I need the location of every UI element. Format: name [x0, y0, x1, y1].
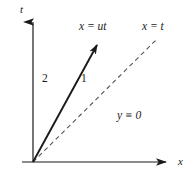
x-axis-label: x	[178, 156, 183, 167]
characteristic-t-label: x = t	[142, 21, 164, 33]
characteristic-ut-line	[33, 45, 97, 162]
spacetime-characteristics-diagram: t x x = ut x = t 2 1 y ≡ 0	[0, 0, 195, 179]
characteristic-t-line	[33, 40, 156, 162]
t-axis-label: t	[20, 4, 23, 15]
region-zero-label: y ≡ 0	[117, 110, 141, 122]
region-2-label: 2	[42, 73, 48, 85]
region-1-label: 1	[81, 73, 87, 85]
characteristic-ut-label: x = ut	[79, 21, 107, 33]
